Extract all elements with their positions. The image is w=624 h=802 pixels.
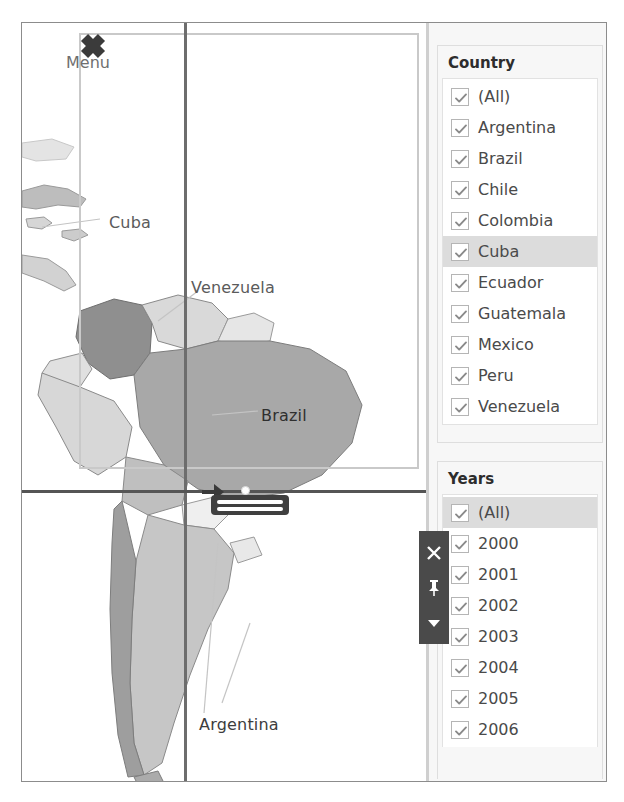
years-item-row[interactable]: (All) bbox=[443, 497, 597, 528]
menu-label[interactable]: Menu bbox=[66, 53, 110, 72]
pin-icon[interactable] bbox=[421, 573, 447, 603]
checkbox-checked-icon[interactable] bbox=[451, 119, 469, 137]
country-item-label: Brazil bbox=[478, 149, 523, 168]
country-item-row[interactable]: Cuba bbox=[443, 236, 597, 267]
country-item-label: Colombia bbox=[478, 211, 553, 230]
map-label-brazil: Brazil bbox=[261, 406, 307, 425]
map-slider-widget[interactable] bbox=[211, 495, 289, 515]
checkbox-checked-icon[interactable] bbox=[451, 659, 469, 677]
checkbox-checked-icon[interactable] bbox=[451, 181, 469, 199]
country-filter-title: Country bbox=[438, 46, 602, 78]
years-filter-card: Years (All)2000200120022003200420052006 bbox=[437, 461, 603, 779]
guide-line-horizontal bbox=[22, 490, 426, 493]
years-item-row[interactable]: 2002 bbox=[443, 590, 597, 621]
country-item-row[interactable]: Argentina bbox=[443, 112, 597, 143]
checkbox-checked-icon[interactable] bbox=[451, 504, 469, 522]
years-item-row[interactable]: 2006 bbox=[443, 714, 597, 745]
checkbox-checked-icon[interactable] bbox=[451, 88, 469, 106]
years-item-label: 2003 bbox=[478, 627, 519, 646]
close-icon[interactable] bbox=[421, 538, 447, 568]
years-item-row[interactable]: 2004 bbox=[443, 652, 597, 683]
country-item-row[interactable]: Ecuador bbox=[443, 267, 597, 298]
years-filter-list[interactable]: (All)2000200120022003200420052006 bbox=[442, 494, 598, 747]
checkbox-checked-icon[interactable] bbox=[451, 566, 469, 584]
country-item-row[interactable]: Colombia bbox=[443, 205, 597, 236]
map-label-venezuela: Venezuela bbox=[191, 278, 275, 297]
checkbox-checked-icon[interactable] bbox=[451, 274, 469, 292]
map-label-cuba: Cuba bbox=[109, 213, 151, 232]
country-item-row[interactable]: Mexico bbox=[443, 329, 597, 360]
country-item-label: Venezuela bbox=[478, 397, 560, 416]
checkbox-checked-icon[interactable] bbox=[451, 690, 469, 708]
checkbox-checked-icon[interactable] bbox=[451, 212, 469, 230]
guide-line-vertical bbox=[184, 23, 187, 781]
years-item-label: 2001 bbox=[478, 565, 519, 584]
years-item-row[interactable]: 2003 bbox=[443, 621, 597, 652]
country-item-row[interactable]: Guatemala bbox=[443, 298, 597, 329]
floating-toolbar[interactable] bbox=[419, 531, 449, 644]
years-filter-title: Years bbox=[438, 462, 602, 494]
checkbox-checked-icon[interactable] bbox=[451, 535, 469, 553]
years-item-row[interactable]: 2000 bbox=[443, 528, 597, 559]
country-filter-card: Country (All)ArgentinaBrazilChileColombi… bbox=[437, 45, 603, 443]
country-item-row[interactable]: Chile bbox=[443, 174, 597, 205]
checkbox-checked-icon[interactable] bbox=[451, 721, 469, 739]
map-pane[interactable]: Menu Cuba Venezuela Brazil Argentina bbox=[22, 23, 426, 781]
slider-bar-upper bbox=[217, 500, 283, 504]
country-item-label: Chile bbox=[478, 180, 518, 199]
application-frame: Menu Cuba Venezuela Brazil Argentina Cou… bbox=[21, 22, 607, 782]
checkbox-checked-icon[interactable] bbox=[451, 336, 469, 354]
map-slider-dot[interactable] bbox=[241, 486, 250, 495]
country-item-row[interactable]: Venezuela bbox=[443, 391, 597, 422]
map-graphic bbox=[22, 23, 426, 781]
slider-bar-lower bbox=[217, 507, 283, 511]
checkbox-checked-icon[interactable] bbox=[451, 243, 469, 261]
country-item-label: Ecuador bbox=[478, 273, 543, 292]
years-item-label: 2006 bbox=[478, 720, 519, 739]
filter-column: Country (All)ArgentinaBrazilChileColombi… bbox=[426, 23, 606, 781]
checkbox-checked-icon[interactable] bbox=[451, 597, 469, 615]
country-item-label: Peru bbox=[478, 366, 514, 385]
country-item-row[interactable]: Brazil bbox=[443, 143, 597, 174]
years-item-row[interactable]: 2005 bbox=[443, 683, 597, 714]
country-item-label: Argentina bbox=[478, 118, 556, 137]
country-item-label: Cuba bbox=[478, 242, 519, 261]
chevron-down-icon[interactable] bbox=[421, 608, 447, 638]
years-item-label: 2002 bbox=[478, 596, 519, 615]
checkbox-checked-icon[interactable] bbox=[451, 305, 469, 323]
years-item-label: 2005 bbox=[478, 689, 519, 708]
years-item-row[interactable]: 2001 bbox=[443, 559, 597, 590]
checkbox-checked-icon[interactable] bbox=[451, 398, 469, 416]
country-item-label: Guatemala bbox=[478, 304, 566, 323]
country-item-row[interactable]: Peru bbox=[443, 360, 597, 391]
years-item-label: 2004 bbox=[478, 658, 519, 677]
checkbox-checked-icon[interactable] bbox=[451, 628, 469, 646]
country-item-label: (All) bbox=[478, 87, 510, 106]
map-label-argentina: Argentina bbox=[199, 715, 279, 734]
checkbox-checked-icon[interactable] bbox=[451, 150, 469, 168]
country-filter-list[interactable]: (All)ArgentinaBrazilChileColombiaCubaEcu… bbox=[442, 78, 598, 425]
checkbox-checked-icon[interactable] bbox=[451, 367, 469, 385]
years-item-label: (All) bbox=[478, 503, 510, 522]
country-item-row[interactable]: (All) bbox=[443, 81, 597, 112]
country-item-label: Mexico bbox=[478, 335, 534, 354]
years-item-label: 2000 bbox=[478, 534, 519, 553]
